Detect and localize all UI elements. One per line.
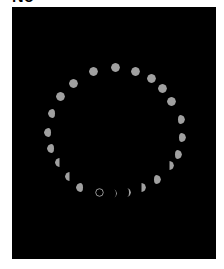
moon-waxing-gibbous-icon — [173, 150, 182, 159]
moon-waning-gibbous-icon — [76, 183, 85, 192]
moon-full-icon — [131, 67, 140, 76]
moon-waxing-crescent-thin-icon — [108, 189, 117, 198]
moon-full-icon — [158, 84, 167, 93]
moon-phase-figure — [12, 7, 216, 259]
moon-waning-gibbous-icon — [48, 109, 57, 118]
moon-first-quarter-icon — [165, 161, 174, 170]
moon-full-icon — [147, 74, 156, 83]
moon-full-icon — [56, 92, 65, 101]
moon-waxing-gibbous-icon — [177, 133, 186, 142]
moon-waxing-gibbous-icon — [176, 115, 185, 124]
moon-last-quarter-icon — [65, 172, 74, 181]
page-heading: No — [12, 0, 34, 6]
moon-waning-gibbous-icon — [44, 128, 53, 137]
moon-new-icon — [95, 188, 104, 197]
moon-waning-gibbous-icon — [47, 144, 56, 153]
moon-full-icon — [111, 63, 120, 72]
moon-last-quarter-icon — [55, 158, 64, 167]
moon-waxing-crescent-icon — [122, 188, 131, 197]
moon-first-quarter-icon — [137, 183, 146, 192]
moon-full-icon — [69, 79, 78, 88]
moon-full-icon — [89, 67, 98, 76]
moon-waxing-gibbous-left-bite-icon — [152, 175, 161, 184]
moon-full-icon — [167, 97, 176, 106]
